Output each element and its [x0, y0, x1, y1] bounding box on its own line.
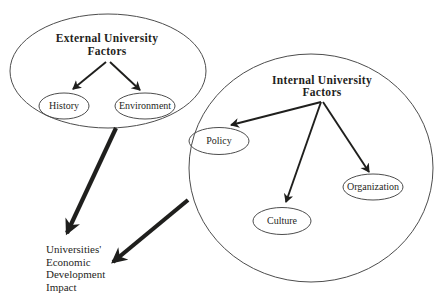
- arrow-external-to-environment: [110, 62, 140, 90]
- environment-node-label: Environment: [119, 100, 171, 111]
- arrow-internal-to-culture: [286, 102, 321, 202]
- arrow-internal-to-impact: [113, 200, 188, 262]
- organization-node-label: Organization: [347, 181, 399, 192]
- history-node-label: History: [49, 100, 79, 111]
- policy-node-label: Policy: [206, 135, 232, 146]
- arrow-internal-to-organization: [323, 102, 369, 172]
- external-factors-title-line2: Factors: [87, 45, 126, 57]
- impact-label-line3: Development: [46, 268, 105, 280]
- external-factors-title-line1: External University: [56, 32, 158, 45]
- internal-factors-title-line2: Factors: [302, 86, 341, 98]
- impact-label-line4: Impact: [46, 281, 77, 293]
- impact-label-line1: Universities': [46, 243, 101, 255]
- culture-node-label: Culture: [267, 215, 298, 226]
- arrow-external-to-impact: [67, 128, 116, 233]
- arrow-external-to-history: [73, 62, 106, 89]
- university-factors-diagram: External University Factors History Envi…: [0, 0, 441, 299]
- impact-label-line2: Economic: [46, 256, 91, 268]
- diagram-canvas: External University Factors History Envi…: [0, 0, 441, 299]
- arrow-internal-to-policy: [231, 102, 321, 125]
